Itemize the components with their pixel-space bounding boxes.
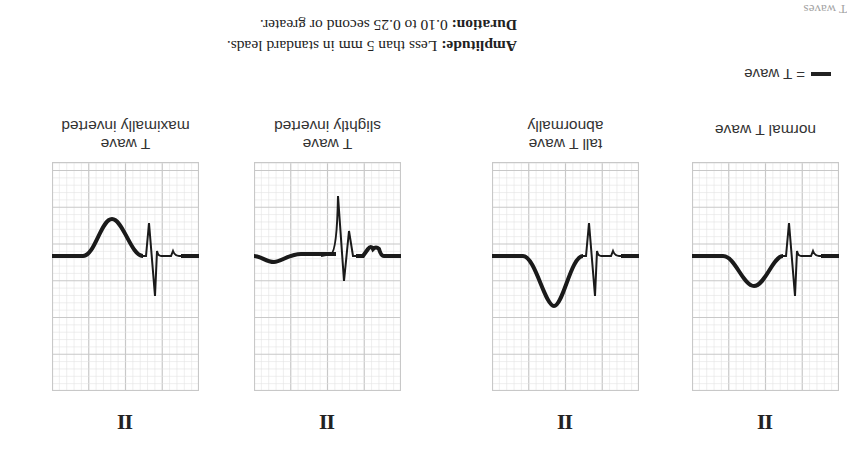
duration-value: 0.10 to 0.25 second or greater. (260, 17, 448, 34)
amplitude-label: Amplitude: (441, 38, 517, 55)
panel-label-line: slightly inverted (234, 117, 421, 135)
panel-label-line: maximally inverted (32, 117, 219, 135)
lead-label: II (492, 409, 639, 435)
legend-label: = T wave (744, 66, 805, 83)
ecg-strip-normal: II (692, 162, 839, 391)
panel-label-tall: tall T wave abnormally (492, 117, 639, 153)
lead-label: II (52, 409, 199, 435)
legend: = T wave (744, 66, 831, 83)
ecg-strip-maximally-inverted: II (52, 162, 199, 391)
cropped-caption-fragment: T waves (767, 0, 847, 17)
panel-label-slightly-inverted: T wave slightly inverted (234, 117, 421, 153)
panel-label-maximally-inverted: T wave maximally inverted (32, 117, 219, 153)
panel-label-line: T wave (234, 135, 421, 153)
amplitude-line: Amplitude: Less than 5 mm in standard le… (117, 36, 517, 57)
duration-label: Duration: (452, 17, 517, 34)
lead-label: II (692, 409, 839, 435)
ecg-t-wave-figure: T waves = T wave Amplitude: Less than 5 … (0, 0, 847, 457)
thick-line-swatch-icon (811, 73, 831, 77)
panel-label-line: normal T wave (692, 121, 839, 139)
duration-line: Duration: 0.10 to 0.25 second or greater… (117, 15, 517, 36)
lead-label: II (254, 409, 401, 435)
panel-label-line: abnormally (492, 117, 639, 135)
ecg-strip-tall: II (492, 162, 639, 391)
panel-label-line: T wave (32, 135, 219, 153)
ecg-strip-slightly-inverted: II (254, 162, 401, 391)
panel-label-normal: normal T wave (692, 121, 839, 139)
panel-label-line: tall T wave (492, 135, 639, 153)
amplitude-value: Less than 5 mm in standard leads. (227, 38, 438, 55)
t-wave-characteristics: Amplitude: Less than 5 mm in standard le… (117, 15, 517, 57)
